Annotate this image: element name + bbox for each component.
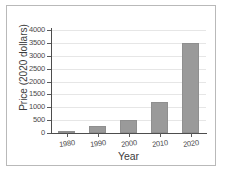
bar-series [51, 30, 206, 133]
y-tick-mark [47, 56, 51, 57]
bar [151, 102, 167, 133]
x-tick-mark [129, 133, 130, 137]
x-tick-mark [191, 133, 192, 137]
y-tick-mark [47, 120, 51, 121]
y-tick-label: 0 [5, 129, 45, 137]
y-axis-title: Price (2020 dollars) [18, 8, 29, 128]
y-tick-mark [47, 69, 51, 70]
bar-slot [58, 30, 74, 133]
plot-area [51, 30, 206, 133]
y-tick-mark [47, 82, 51, 83]
x-tick-mark [67, 133, 68, 137]
chart-figure: 05001000150020002500300035004000 1980199… [0, 0, 225, 177]
bar [120, 120, 136, 133]
bar-slot [120, 30, 136, 133]
y-tick-mark [47, 30, 51, 31]
y-tick-mark [47, 43, 51, 44]
y-tick-mark [47, 107, 51, 108]
y-tick-mark [47, 133, 51, 134]
bar-slot [151, 30, 167, 133]
y-tick-mark [47, 94, 51, 95]
x-tick-mark [98, 133, 99, 137]
x-axis-title: Year [51, 150, 206, 162]
bar [182, 43, 198, 133]
x-tick-mark [160, 133, 161, 137]
bar-slot [182, 30, 198, 133]
y-axis-line [51, 28, 52, 134]
bar-slot [89, 30, 105, 133]
bar [89, 126, 105, 133]
